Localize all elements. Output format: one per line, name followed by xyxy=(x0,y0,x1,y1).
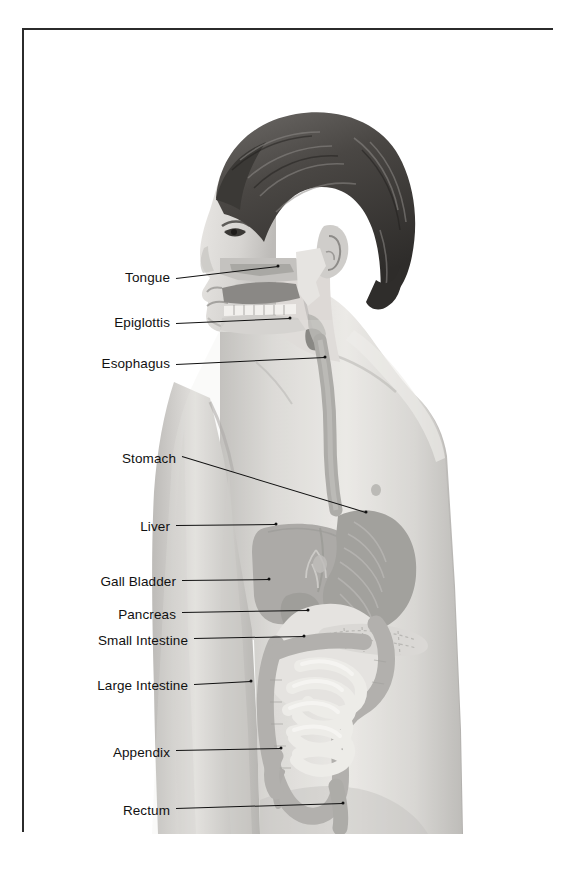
figure-page: TongueEpiglottisEsophagusStomachLiverGal… xyxy=(0,0,575,886)
boy-digestive-system-artwork xyxy=(24,30,555,834)
anatomy-illustration xyxy=(24,30,555,834)
figure-frame xyxy=(22,28,553,832)
